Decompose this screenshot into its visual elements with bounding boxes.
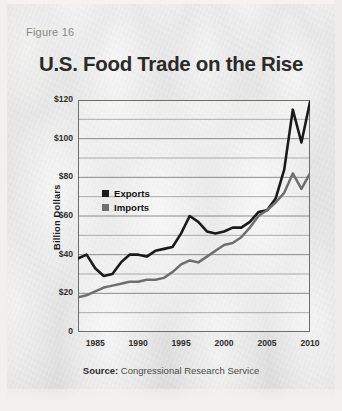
legend-item-exports: Exports [102,188,150,199]
gridlines [78,100,310,332]
figure-page: Figure 16 U.S. Food Trade on the Rise Bi… [0,0,342,411]
line-chart: Billion Dollars Exports Imports 0$20$40$… [78,100,310,332]
x-axis-tick-label: 1985 [75,338,115,348]
legend-item-imports: Imports [102,202,150,213]
y-axis-tick-label: $60 [33,210,73,220]
legend-swatch-exports [102,190,109,197]
plot-svg-wrapper [78,100,310,332]
chart-legend: Exports Imports [102,188,150,216]
page-title: U.S. Food Trade on the Rise [0,52,342,76]
y-axis-tick-label: $120 [33,94,73,104]
x-axis-tick-label: 2010 [290,338,330,348]
plot-svg [78,100,310,332]
figure-label: Figure 16 [26,26,74,38]
y-axis-tick-label: $20 [33,287,73,297]
source-prefix: Source: [83,365,118,376]
y-axis-tick-label: $100 [33,133,73,143]
y-axis-tick-label: $40 [33,249,73,259]
y-axis-tick-label: 0 [33,326,73,336]
legend-label-exports: Exports [114,188,150,199]
x-axis-tick-label: 2005 [247,338,287,348]
x-axis-tick-label: 1990 [118,338,158,348]
x-axis-tick-label: 1995 [161,338,201,348]
x-axis-tick-label: 2000 [204,338,244,348]
source-text: Congressional Research Service [121,365,259,376]
legend-label-imports: Imports [114,202,149,213]
source-note: Source: Congressional Research Service [0,365,342,376]
page-border-bottom [0,389,342,411]
page-border-top [0,0,342,4]
y-axis-tick-label: $80 [33,171,73,181]
legend-swatch-imports [102,204,109,211]
y-axis-title: Billion Dollars [52,150,62,250]
